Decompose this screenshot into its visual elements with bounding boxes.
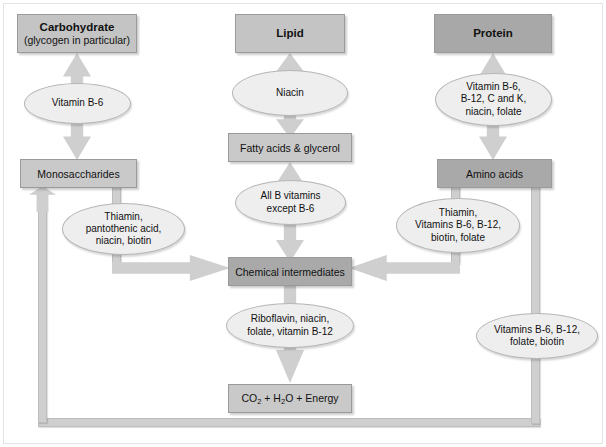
protein-header-box: Protein xyxy=(434,14,552,53)
oxidation-oval-line-2: folate, vitamin B-12 xyxy=(247,326,333,338)
carbohydrate-vitamin-label: Vitamin B-6 xyxy=(52,97,104,109)
protein-oval-line-2: Vitamins B-6, B-12, xyxy=(415,219,501,231)
diagram-canvas: Carbohydrate (glycogen in particular) Vi… xyxy=(0,0,606,447)
fatty-acids-glycerol-box: Fatty acids & glycerol xyxy=(228,133,352,162)
oxidation-oval-line-1: Riboflavin, niacin, xyxy=(251,313,329,325)
lipid-oval-line-1: All B vitamins xyxy=(260,190,320,202)
protein-vitamin-oval: Vitamin B-6, B-12, C and K, niacin, fola… xyxy=(435,73,552,126)
energy-co-prefix: CO xyxy=(241,392,257,404)
carb-to-intermediates-oval: Thiamin, pantothenic acid, niacin, bioti… xyxy=(62,203,185,255)
protein-oval-line-1: Thiamin, xyxy=(439,207,477,219)
protein-to-intermediates-oval: Thiamin, Vitamins B-6, B-12, biotin, fol… xyxy=(396,198,520,253)
carbohydrate-header-box: Carbohydrate (glycogen in particular) xyxy=(17,14,137,53)
feedback-loop-arrowhead-to-monosaccharides xyxy=(29,186,56,212)
energy-products-label: CO2 + H2O + Energy xyxy=(241,392,338,406)
protein-title: Protein xyxy=(473,27,513,40)
amino-acids-label: Amino acids xyxy=(466,168,523,180)
carb-oval-line-2: pantothenic acid, xyxy=(86,223,162,235)
monosaccharides-label: Monosaccharides xyxy=(37,168,119,180)
lipid-title: Lipid xyxy=(276,27,303,40)
fatty-acids-glycerol-label: Fatty acids & glycerol xyxy=(240,142,340,154)
chemical-intermediates-label: Chemical intermediates xyxy=(235,266,345,278)
protein-oval-line-3: biotin, folate xyxy=(431,232,485,244)
protein-vitamin-line-1: Vitamin B-6, xyxy=(466,81,520,93)
protein-to-intermediates-arrow xyxy=(349,255,460,281)
lipid-vitamin-label: Niacin xyxy=(276,87,304,99)
feedback-loop-right-vertical xyxy=(531,186,540,424)
oxidation-vitamin-oval: Riboflavin, niacin, folate, vitamin B-12 xyxy=(226,303,354,348)
feedback-oval-line-2: folate, biotin xyxy=(510,336,564,348)
protein-vitamin-line-3: niacin, folate xyxy=(465,106,521,118)
carbohydrate-vitamin-oval: Vitamin B-6 xyxy=(24,83,131,124)
feedback-right-oval: Vitamins B-6, B-12, folate, biotin xyxy=(476,313,598,359)
carbohydrate-title: Carbohydrate xyxy=(40,21,115,34)
carb-to-intermediates-arrow xyxy=(112,255,230,281)
lipid-to-intermediates-oval: All B vitamins except B-6 xyxy=(235,180,346,225)
lipid-header-box: Lipid xyxy=(235,14,345,53)
monosaccharides-box: Monosaccharides xyxy=(20,159,137,188)
energy-mid: + H xyxy=(261,392,281,404)
protein-vitamin-line-2: B-12, C and K, xyxy=(461,93,527,105)
amino-acids-box: Amino acids xyxy=(437,159,552,188)
energy-products-box: CO2 + H2O + Energy xyxy=(228,384,352,413)
feedback-loop-left-vertical xyxy=(38,205,47,423)
feedback-oval-line-1: Vitamins B-6, B-12, xyxy=(494,324,580,336)
lipid-oval-line-2: except B-6 xyxy=(267,203,315,215)
chemical-intermediates-box: Chemical intermediates xyxy=(228,257,352,286)
feedback-loop-bottom-rail xyxy=(38,418,540,427)
energy-suffix: O + Energy xyxy=(285,392,338,404)
carbohydrate-subtitle: (glycogen in particular) xyxy=(24,34,130,46)
lipid-vitamin-oval: Niacin xyxy=(232,70,348,116)
carb-oval-line-3: niacin, biotin xyxy=(96,235,152,247)
carb-oval-line-1: Thiamin, xyxy=(104,211,142,223)
